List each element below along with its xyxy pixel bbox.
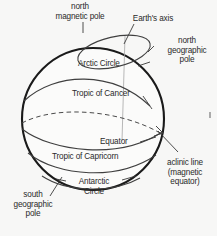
label-earths-axis: Earth's axis [122,14,184,24]
label-antarctic-circle: Antarctic Circle [67,177,121,196]
label-tropic-of-cancer: Tropic of Cancer [72,89,150,99]
earth-poles-figure: north magnetic pole Earth's axis north g… [0,0,217,236]
label-north-magnetic-pole: north magnetic pole [38,2,122,21]
globe-outline [22,48,164,190]
label-north-geographic-pole: north geographic pole [158,36,216,65]
label-aclinic-line: aclinic line (magnetic equator) [155,158,215,187]
leader-earths-axis [124,24,134,44]
label-south-geographic-pole: south geographic pole [2,190,64,219]
label-arctic-circle: Arctic Circle [78,59,140,69]
label-equator: Equator [100,137,146,147]
scan-speck-artifact [209,112,211,118]
label-tropic-of-capricorn: Tropic of Capricorn [52,152,140,162]
